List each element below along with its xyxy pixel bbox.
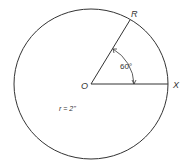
label-x: X [172,80,180,90]
label-r: R [131,9,138,19]
label-radius: r = 2'' [59,105,77,112]
circle-diagram: O R X 60° r = 2'' [0,0,188,164]
radius-or [91,20,130,84]
label-angle: 60° [120,62,132,71]
label-o: O [81,81,88,91]
